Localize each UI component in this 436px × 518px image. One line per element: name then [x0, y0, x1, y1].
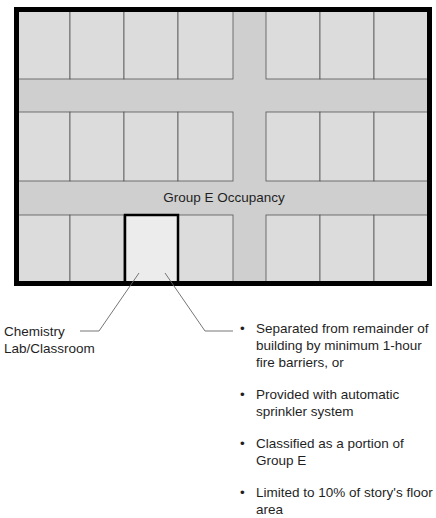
requirement-item: • Separated from remainder of building b…	[240, 320, 436, 371]
requirement-item: • Provided with automatic sprinkler syst…	[240, 386, 436, 420]
requirement-text: Provided with automatic sprinkler system	[256, 386, 436, 420]
room-label: Chemistry Lab/Classroom	[4, 323, 95, 357]
requirement-text: Separated from remainder of building by …	[256, 320, 436, 371]
rooms-bottom-row	[17, 215, 429, 283]
requirement-text: Limited to 10% of story's floor area	[256, 484, 436, 518]
requirement-item: • Limited to 10% of story's floor area	[240, 484, 436, 518]
rooms-middle-row	[17, 112, 429, 181]
bullet-icon: •	[240, 435, 245, 452]
bullet-icon: •	[240, 320, 245, 337]
room-label-line2: Lab/Classroom	[4, 340, 95, 357]
room-label-line1: Chemistry	[4, 323, 95, 340]
occupancy-label: Group E Occupancy	[124, 189, 324, 206]
requirement-text: Classified as a portion of Group E	[256, 435, 436, 469]
requirement-item: • Classified as a portion of Group E	[240, 435, 436, 469]
bullet-icon: •	[240, 484, 245, 501]
requirements-list: • Separated from remainder of building b…	[240, 320, 436, 518]
bullet-icon: •	[240, 386, 245, 403]
chemistry-lab-room	[125, 215, 178, 283]
rooms-top-row	[17, 10, 429, 79]
